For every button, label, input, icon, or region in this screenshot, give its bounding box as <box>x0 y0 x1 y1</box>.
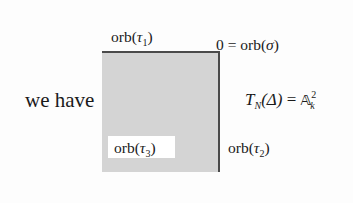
label-orb-tau1: orb(τ1) <box>111 28 153 46</box>
label-orb-sigma: 0 = orb(σ) <box>216 36 279 54</box>
label-orb-tau2: orb(τ2) <box>228 139 270 157</box>
label-orb-tau3: orb(τ3) <box>114 139 156 157</box>
toric-variety-formula: TN(Δ) = 𝔸2k <box>245 90 315 110</box>
lead-text: we have <box>25 88 94 113</box>
